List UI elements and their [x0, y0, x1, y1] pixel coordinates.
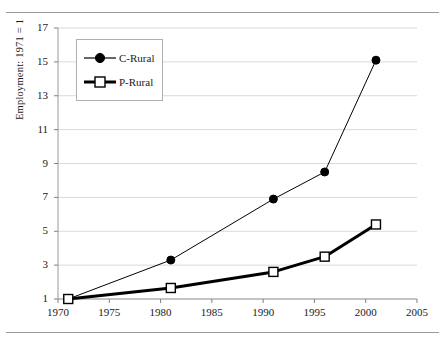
x-tick-label-2000: 2000	[346, 306, 386, 318]
y-tick-label-17: 17	[26, 21, 48, 33]
marker-p-rural-1971	[64, 295, 73, 304]
legend-label-p-rural: P-Rural	[119, 76, 153, 88]
x-axis-ticks	[58, 299, 417, 303]
legend-entry-p-rural: P-Rural	[83, 73, 153, 91]
y-tick-label-11: 11	[26, 123, 48, 135]
y-tick-label-9: 9	[26, 157, 48, 169]
chart-figure: Employment: 1971 = 1 1357911131517 19701…	[0, 0, 445, 349]
x-tick-label-1995: 1995	[294, 306, 334, 318]
marker-p-rural-1991	[269, 267, 278, 276]
y-tick-label-3: 3	[26, 258, 48, 270]
marker-c-rural-1996	[321, 168, 329, 176]
legend-marker-filled-circle-icon	[83, 51, 117, 65]
y-tick-label-15: 15	[26, 55, 48, 67]
x-tick-label-1970: 1970	[38, 306, 78, 318]
legend-marker-open-square-icon	[83, 75, 117, 89]
marker-c-rural-1991	[269, 195, 277, 203]
x-tick-label-1990: 1990	[243, 306, 283, 318]
marker-p-rural-2001	[371, 220, 380, 229]
marker-p-rural-1996	[320, 252, 329, 261]
chart-legend: C-Rural P-Rural	[76, 39, 163, 101]
x-tick-label-1980: 1980	[141, 306, 181, 318]
y-axis-ticks	[54, 28, 58, 299]
y-tick-label-13: 13	[26, 89, 48, 101]
legend-entry-c-rural: C-Rural	[83, 49, 154, 67]
plot-area	[0, 0, 445, 349]
marker-c-rural-1981	[167, 256, 175, 264]
y-tick-label-7: 7	[26, 190, 48, 202]
marker-c-rural-2001	[372, 56, 380, 64]
x-tick-label-1985: 1985	[192, 306, 232, 318]
legend-label-c-rural: C-Rural	[119, 52, 154, 64]
x-tick-label-2005: 2005	[397, 306, 437, 318]
x-tick-label-1975: 1975	[89, 306, 129, 318]
y-tick-label-5: 5	[26, 224, 48, 236]
y-tick-label-1: 1	[26, 292, 48, 304]
marker-p-rural-1981	[166, 283, 175, 292]
